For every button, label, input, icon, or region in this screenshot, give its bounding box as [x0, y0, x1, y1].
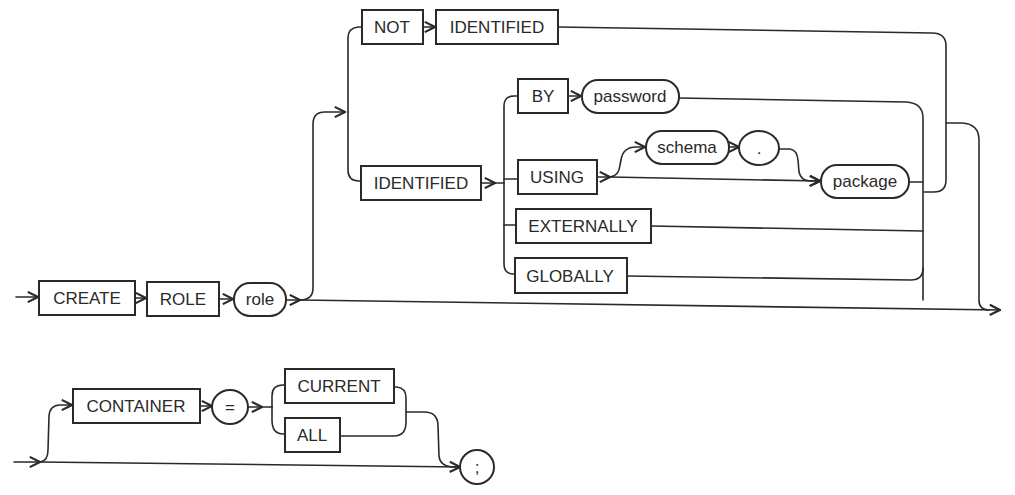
svg-text:GLOBALLY: GLOBALLY: [526, 267, 614, 286]
svg-text:EXTERNALLY: EXTERNALLY: [528, 217, 637, 236]
svg-text:IDENTIFIED: IDENTIFIED: [450, 18, 544, 37]
variable-schema: schema: [646, 131, 729, 164]
keyword-identified-after-not: IDENTIFIED: [436, 10, 558, 44]
svg-text:BY: BY: [532, 87, 555, 106]
symbol-equals: =: [212, 390, 248, 424]
svg-text:CURRENT: CURRENT: [297, 377, 380, 396]
variable-package: package: [821, 165, 909, 198]
variable-role: role: [234, 283, 286, 316]
svg-text:ALL: ALL: [297, 426, 327, 445]
svg-text:schema: schema: [657, 138, 717, 157]
create-role-syntax-diagram: CREATE ROLE role NOT IDENTIFIED IDENTIFI…: [0, 0, 1015, 495]
svg-text:USING: USING: [530, 168, 584, 187]
keyword-role: ROLE: [147, 282, 219, 316]
svg-text:;: ;: [475, 458, 480, 477]
keyword-using: USING: [518, 160, 597, 194]
keyword-globally: GLOBALLY: [515, 258, 627, 293]
keyword-current: CURRENT: [285, 369, 394, 403]
keyword-externally: EXTERNALLY: [516, 209, 651, 243]
symbol-dot: .: [739, 131, 779, 165]
svg-text:role: role: [246, 290, 274, 309]
keyword-all: ALL: [285, 418, 340, 452]
svg-text:password: password: [594, 87, 667, 106]
svg-text:.: .: [757, 139, 762, 158]
svg-text:=: =: [225, 398, 235, 417]
svg-text:package: package: [833, 172, 897, 191]
svg-text:ROLE: ROLE: [160, 290, 206, 309]
svg-text:NOT: NOT: [374, 18, 410, 37]
symbol-semicolon: ;: [460, 450, 494, 484]
keyword-container: CONTAINER: [73, 389, 200, 423]
svg-text:CONTAINER: CONTAINER: [87, 397, 186, 416]
svg-text:CREATE: CREATE: [53, 289, 121, 308]
keyword-create: CREATE: [39, 281, 135, 315]
bypass-line: [300, 300, 1000, 310]
keyword-by: BY: [518, 79, 568, 113]
svg-text:IDENTIFIED: IDENTIFIED: [374, 174, 468, 193]
keyword-not: NOT: [362, 10, 423, 44]
variable-password: password: [582, 80, 679, 113]
keyword-identified: IDENTIFIED: [361, 166, 481, 200]
